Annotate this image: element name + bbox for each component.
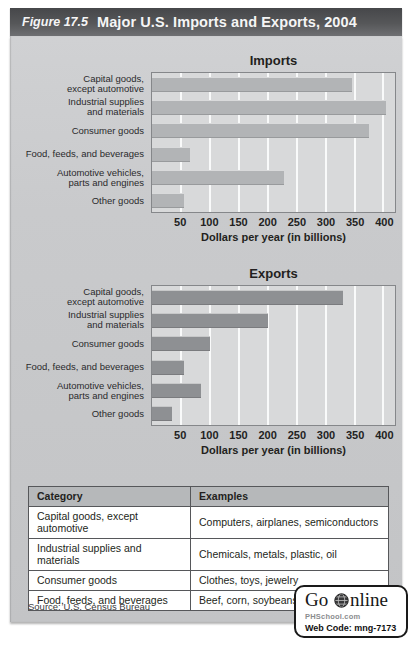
bar-row: [152, 402, 395, 425]
figure-panel: Imports Capital goods, except automotive…: [10, 36, 402, 622]
bar: [152, 147, 190, 162]
x-tick-label: 350: [346, 216, 364, 228]
bar: [152, 383, 201, 398]
x-tick-label: 250: [288, 216, 306, 228]
figure-title-bar: Figure 17.5 Major U.S. Imports and Expor…: [10, 8, 402, 36]
badge-site-url: PHSchool.com: [305, 612, 400, 621]
figure-title: Major U.S. Imports and Exports, 2004: [97, 14, 357, 30]
exports-plot-area: [151, 285, 396, 426]
x-tick-label: 50: [174, 429, 186, 441]
table-header-cell: Category: [29, 487, 191, 507]
table-cell: Computers, airplanes, semiconductors: [191, 507, 389, 539]
bar-row: [152, 166, 395, 189]
bar: [152, 336, 210, 351]
x-tick-label: 100: [200, 429, 218, 441]
imports-plot-area: [151, 72, 396, 213]
bar: [152, 406, 172, 421]
category-label: Food, feeds, and beverages: [10, 143, 151, 167]
table-cell: Industrial supplies and materials: [29, 539, 191, 571]
globe-icon: [334, 592, 349, 612]
bar: [152, 360, 184, 375]
online-text: nline: [350, 589, 388, 610]
bar: [152, 193, 184, 208]
category-label: Industrial supplies and materials: [10, 96, 151, 120]
table-cell: Chemicals, metals, plastic, oil: [191, 539, 389, 571]
table-cell: Consumer goods: [29, 571, 191, 591]
category-label: Capital goods, except automotive: [10, 72, 151, 96]
badge-web-code: Web Code: mng-7173: [305, 623, 400, 633]
bar: [152, 313, 268, 328]
category-label: Other goods: [10, 190, 151, 214]
bar: [152, 77, 352, 92]
bar-row: [152, 332, 395, 355]
category-label: Consumer goods: [10, 332, 151, 356]
category-label: Consumer goods: [10, 119, 151, 143]
x-tick-label: 400: [375, 429, 393, 441]
go-online-wordmark: Go nline: [305, 590, 400, 612]
category-label: Food, feeds, and beverages: [10, 356, 151, 380]
bar: [152, 100, 386, 115]
x-tick-label: 300: [317, 216, 335, 228]
exports-x-axis-ticks: 50100150200250300350400: [151, 429, 396, 441]
exports-chart-title: Exports: [151, 266, 396, 281]
x-tick-label: 200: [258, 429, 276, 441]
bar-row: [152, 73, 395, 96]
bar-row: [152, 119, 395, 142]
go-online-badge: Go nline PHSchool.com Web Code: mng-7173: [294, 585, 408, 638]
bar-row: [152, 96, 395, 119]
category-label: Industrial supplies and materials: [10, 309, 151, 333]
x-tick-label: 350: [346, 429, 364, 441]
bar-row: [152, 189, 395, 212]
imports-category-labels: Capital goods, except automotiveIndustri…: [10, 72, 151, 213]
x-tick-label: 100: [200, 216, 218, 228]
bars-layer: [152, 286, 395, 425]
source-note: Source: U.S. Census Bureau: [28, 601, 150, 612]
category-label: Capital goods, except automotive: [10, 285, 151, 309]
table-cell: Capital goods, except automotive: [29, 507, 191, 539]
imports-chart-title: Imports: [151, 53, 396, 68]
x-tick-label: 150: [229, 216, 247, 228]
bar-row: [152, 143, 395, 166]
exports-x-axis-label: Dollars per year (in billions): [151, 444, 396, 456]
bar-row: [152, 379, 395, 402]
category-label: Automotive vehicles, parts and engines: [10, 166, 151, 190]
x-tick-label: 400: [375, 216, 393, 228]
bars-layer: [152, 73, 395, 212]
figure-page: Figure 17.5 Major U.S. Imports and Expor…: [0, 0, 412, 645]
imports-x-axis-label: Dollars per year (in billions): [151, 231, 396, 243]
bar: [152, 123, 369, 138]
category-label: Automotive vehicles, parts and engines: [10, 379, 151, 403]
x-tick-label: 50: [174, 216, 186, 228]
table-row: Industrial supplies and materialsChemica…: [29, 539, 389, 571]
figure-number: Figure 17.5: [22, 15, 88, 29]
category-label: Other goods: [10, 403, 151, 427]
x-tick-label: 150: [229, 429, 247, 441]
imports-x-axis-ticks: 50100150200250300350400: [151, 216, 396, 228]
x-tick-label: 200: [258, 216, 276, 228]
x-tick-label: 300: [317, 429, 335, 441]
bar-row: [152, 356, 395, 379]
go-text: Go: [305, 589, 328, 610]
table-header-row: CategoryExamples: [29, 487, 389, 507]
x-tick-label: 250: [288, 429, 306, 441]
exports-category-labels: Capital goods, except automotiveIndustri…: [10, 285, 151, 426]
bar-row: [152, 286, 395, 309]
bar-row: [152, 309, 395, 332]
table-header-cell: Examples: [191, 487, 389, 507]
bar: [152, 290, 343, 305]
bar: [152, 170, 284, 185]
table-row: Capital goods, except automotiveComputer…: [29, 507, 389, 539]
